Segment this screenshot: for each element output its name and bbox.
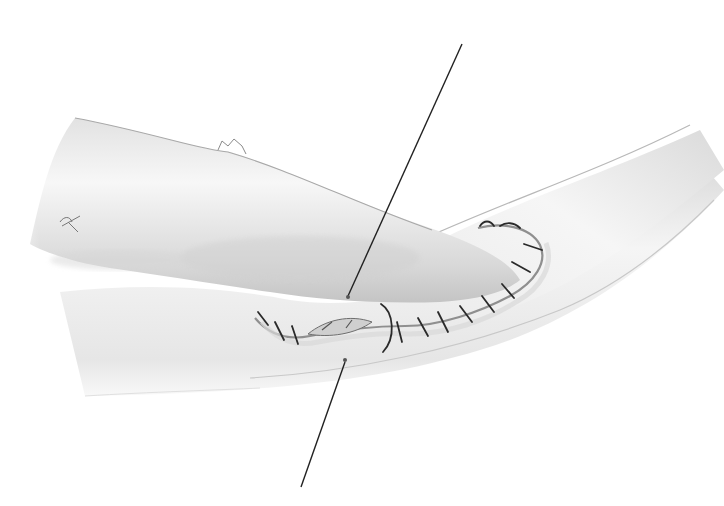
illustration-svg bbox=[0, 0, 724, 506]
leader-dot-upper bbox=[346, 295, 350, 299]
leader-dot-lower bbox=[343, 358, 347, 362]
anastomosis-illustration bbox=[0, 0, 724, 506]
